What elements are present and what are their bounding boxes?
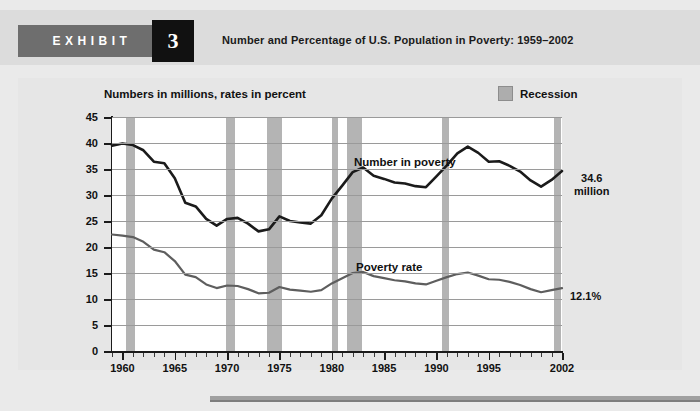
x-tick-minor — [154, 353, 155, 357]
y-tick-label: 30 — [70, 189, 98, 201]
x-tick-major — [279, 353, 281, 360]
y-tick-mark — [104, 247, 112, 249]
x-tick-major — [489, 353, 491, 360]
x-tick-minor — [426, 353, 427, 357]
x-tick-minor — [217, 353, 218, 357]
legend-item-recession: Recession — [520, 88, 578, 100]
y-tick-mark — [104, 117, 112, 119]
y-tick-label: 35 — [70, 163, 98, 175]
x-tick-minor — [374, 353, 375, 357]
x-tick-minor — [269, 353, 270, 357]
x-tick-label: 1990 — [424, 362, 448, 374]
annotation-number-in-poverty: Number in poverty — [354, 156, 456, 168]
x-tick-minor — [520, 353, 521, 357]
y-tick-mark — [104, 143, 112, 145]
gridline — [112, 169, 562, 170]
y-tick-mark — [104, 195, 112, 197]
y-tick-mark — [104, 299, 112, 301]
x-tick-minor — [395, 353, 396, 357]
y-tick-label: 5 — [70, 319, 98, 331]
x-tick-minor — [300, 353, 301, 357]
line-number-in-poverty — [112, 144, 562, 232]
page-title: Number and Percentage of U.S. Population… — [222, 34, 574, 46]
x-tick-minor — [457, 353, 458, 357]
x-tick-label: 1995 — [476, 362, 500, 374]
chart-figure: Numbers in millions, rates in percent Re… — [18, 78, 682, 370]
x-tick-major — [122, 353, 124, 360]
x-tick-minor — [164, 353, 165, 357]
x-tick-minor — [290, 353, 291, 357]
x-tick-major — [436, 353, 438, 360]
recession-swatch-icon — [498, 86, 513, 101]
x-tick-minor — [185, 353, 186, 357]
y-tick-label: 15 — [70, 267, 98, 279]
line-poverty-rate — [112, 235, 562, 294]
y-tick-mark — [104, 351, 112, 353]
x-tick-minor — [238, 353, 239, 357]
x-tick-minor — [248, 353, 249, 357]
gridline — [112, 247, 562, 248]
gridline — [112, 195, 562, 196]
x-tick-label: 1980 — [320, 362, 344, 374]
x-tick-minor — [133, 353, 134, 357]
x-tick-minor — [478, 353, 479, 357]
gridline — [112, 273, 562, 274]
plot-area — [112, 117, 562, 351]
end-label-number-unit: million — [574, 185, 609, 198]
x-tick-label: 2002 — [550, 362, 574, 374]
x-tick-minor — [112, 353, 113, 357]
annotation-poverty-rate: Poverty rate — [356, 261, 422, 273]
exhibit-label-block: EXHIBIT — [18, 25, 166, 57]
x-tick-minor — [196, 353, 197, 357]
chart-legend: Recession — [498, 86, 578, 101]
exhibit-header: EXHIBIT 3 Number and Percentage of U.S. … — [0, 10, 700, 65]
x-tick-minor — [311, 353, 312, 357]
gridline — [112, 117, 562, 118]
x-tick-label: 1960 — [110, 362, 134, 374]
x-tick-minor — [468, 353, 469, 357]
x-tick-major — [384, 353, 386, 360]
y-tick-label: 0 — [70, 345, 98, 357]
y-tick-mark — [104, 325, 112, 327]
x-tick-minor — [206, 353, 207, 357]
x-tick-minor — [321, 353, 322, 357]
x-tick-label: 1975 — [267, 362, 291, 374]
y-tick-label: 40 — [70, 137, 98, 149]
x-tick-minor — [499, 353, 500, 357]
x-tick-minor — [405, 353, 406, 357]
x-tick-label: 1965 — [163, 362, 187, 374]
x-tick-label: 1970 — [215, 362, 239, 374]
x-tick-minor — [363, 353, 364, 357]
y-tick-mark — [104, 169, 112, 171]
x-axis — [111, 351, 563, 353]
gridline — [112, 299, 562, 300]
x-tick-minor — [259, 353, 260, 357]
x-tick-label: 1985 — [372, 362, 396, 374]
y-tick-mark — [104, 273, 112, 275]
bottom-rule-shadow — [210, 400, 700, 402]
x-tick-minor — [415, 353, 416, 357]
gridline — [112, 325, 562, 326]
gridline — [112, 143, 562, 144]
x-tick-minor — [353, 353, 354, 357]
end-label-number: 34.6 million — [574, 172, 609, 198]
x-tick-minor — [541, 353, 542, 357]
x-tick-major — [175, 353, 177, 360]
exhibit-number-box: 3 — [152, 20, 194, 62]
y-tick-label: 25 — [70, 215, 98, 227]
x-tick-major — [227, 353, 229, 360]
end-label-number-value: 34.6 — [574, 172, 609, 185]
exhibit-number: 3 — [152, 20, 194, 62]
exhibit-page: EXHIBIT 3 Number and Percentage of U.S. … — [0, 0, 700, 411]
x-tick-minor — [552, 353, 553, 357]
x-tick-minor — [143, 353, 144, 357]
exhibit-word: EXHIBIT — [18, 25, 166, 57]
y-tick-mark — [104, 221, 112, 223]
x-tick-minor — [342, 353, 343, 357]
x-tick-minor — [531, 353, 532, 357]
x-tick-major — [332, 353, 334, 360]
y-tick-label: 20 — [70, 241, 98, 253]
chart-subtitle: Numbers in millions, rates in percent — [104, 88, 306, 100]
x-tick-major — [562, 353, 564, 360]
y-tick-label: 45 — [70, 111, 98, 123]
